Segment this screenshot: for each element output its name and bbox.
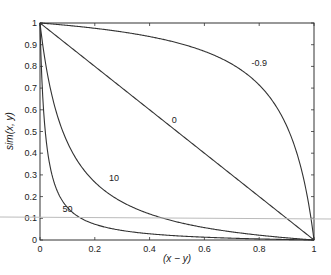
- x-tick-label: 0: [37, 244, 42, 254]
- y-tick-label: 0.8: [24, 61, 37, 71]
- x-tick-label: 0.8: [253, 244, 266, 254]
- x-tick-label: 0.6: [198, 244, 211, 254]
- curves: [40, 23, 314, 240]
- curve-label: 0: [172, 115, 177, 125]
- y-tick-label: 0.4: [24, 148, 37, 158]
- curve-label: 50: [62, 204, 72, 214]
- line-chart: 00.20.40.60.8100.10.20.30.40.50.60.70.80…: [0, 0, 331, 275]
- x-axis-title: (x − y): [163, 253, 191, 264]
- y-tick-label: 0.6: [24, 105, 37, 115]
- y-tick-label: 0.2: [24, 192, 37, 202]
- curve-labels: -0.901050: [62, 58, 267, 213]
- y-tick-label: 0.5: [24, 127, 37, 137]
- x-tick-label: 0.4: [143, 244, 156, 254]
- y-tick-label: 1: [32, 18, 37, 28]
- y-tick-label: 0.9: [24, 40, 37, 50]
- series-line-0: [40, 23, 314, 240]
- y-tick-label: 0.7: [24, 83, 37, 93]
- y-tick-label: 0.1: [24, 213, 37, 223]
- curve-label: 10: [109, 173, 119, 183]
- y-axis-title: sim(x, y): [4, 112, 15, 150]
- y-tick-label: 0.3: [24, 170, 37, 180]
- x-tick-label: 1: [311, 244, 316, 254]
- x-tick-label: 0.2: [89, 244, 102, 254]
- curve-label: -0.9: [251, 58, 267, 68]
- y-tick-label: 0: [32, 235, 37, 245]
